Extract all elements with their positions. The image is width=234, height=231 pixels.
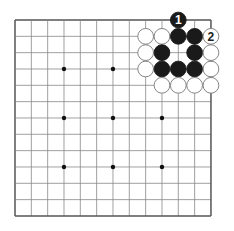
go-board-diagram: 12 — [0, 0, 234, 231]
white-stone — [187, 77, 203, 93]
star-point — [160, 116, 164, 120]
move-number: 1 — [175, 13, 182, 27]
black-stone — [187, 61, 203, 77]
star-point — [160, 165, 164, 169]
white-stone — [138, 61, 154, 77]
black-stone: 1 — [170, 12, 186, 28]
white-stone: 2 — [203, 28, 219, 44]
star-point — [111, 67, 115, 71]
star-point — [62, 116, 66, 120]
star-point — [62, 67, 66, 71]
black-stone — [154, 45, 170, 61]
white-stone — [203, 45, 219, 61]
star-point — [62, 165, 66, 169]
white-stone — [154, 77, 170, 93]
white-stone — [203, 61, 219, 77]
black-stone — [187, 45, 203, 61]
black-stone — [170, 61, 186, 77]
star-point — [111, 116, 115, 120]
star-point — [111, 165, 115, 169]
white-stone — [138, 45, 154, 61]
white-stone — [170, 77, 186, 93]
black-stone — [187, 28, 203, 44]
white-stone — [154, 28, 170, 44]
black-stone — [154, 61, 170, 77]
black-stone — [170, 28, 186, 44]
white-stone — [138, 28, 154, 44]
move-number: 2 — [208, 30, 215, 44]
white-stone — [203, 77, 219, 93]
